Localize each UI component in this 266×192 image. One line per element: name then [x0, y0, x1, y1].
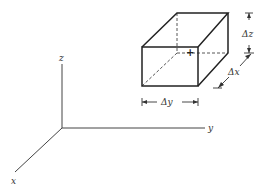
top-face	[142, 13, 228, 47]
x-axis-label: x	[11, 176, 16, 186]
dy-arrowhead-left	[142, 100, 147, 104]
dy-dimension: Δy	[142, 97, 198, 107]
x-axis	[15, 128, 62, 172]
dz-arrowhead-top	[247, 13, 251, 18]
right-face	[198, 13, 228, 86]
dx-dimension: Δx	[213, 54, 251, 88]
dy-arrowhead-right	[193, 100, 198, 104]
dz-dimension: Δz	[241, 13, 254, 53]
dz-label: Δz	[241, 29, 253, 39]
hidden-edge-diagonal	[142, 53, 177, 86]
z-axis-label: z	[58, 53, 64, 63]
center-point-marker: +	[186, 47, 194, 58]
coordinate-axes: z y x	[11, 53, 214, 186]
dz-arrowhead-bottom	[247, 48, 251, 53]
y-axis-label: y	[207, 123, 214, 133]
dx-arrowhead-top	[245, 54, 251, 59]
dx-label: Δx	[227, 67, 240, 77]
dy-label: Δy	[160, 97, 173, 107]
control-volume-box: +	[142, 13, 228, 86]
control-volume-diagram: z y x + Δz Δx	[0, 0, 266, 192]
